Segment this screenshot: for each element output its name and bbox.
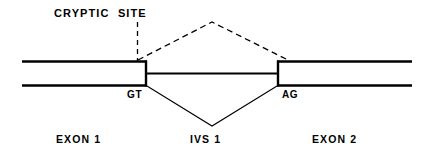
cryptic-site-label: CRYPTIC SITE (54, 8, 147, 19)
normal-splice-path (147, 86, 277, 126)
exon1-label: EXON 1 (56, 134, 101, 145)
splice-site-diagram: CRYPTIC SITE GT AG EXON 1 IVS 1 EXON 2 (0, 0, 428, 157)
exon1-box (22, 61, 147, 87)
exon2-box (277, 61, 412, 87)
cryptic-splice-path (138, 22, 288, 60)
acceptor-site-label: AG (282, 90, 298, 100)
donor-site-label: GT (127, 90, 142, 100)
ivs1-label: IVS 1 (190, 134, 221, 145)
exon2-label: EXON 2 (312, 134, 357, 145)
